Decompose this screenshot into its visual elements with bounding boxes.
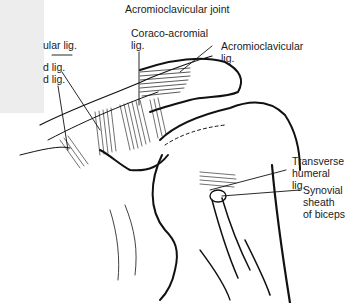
label-left-truncated-3: d lig.	[43, 73, 65, 85]
label-synovial-3: of biceps	[303, 208, 345, 220]
label-left-truncated-1: ular lig.	[43, 39, 77, 51]
label-acromioclavicular-joint: Acromioclavicular joint	[125, 3, 229, 15]
label-left-truncated-2: d lig.	[43, 61, 65, 73]
leader-synovial	[222, 190, 300, 196]
label-acromioclavicular-lig-2: lig.	[221, 52, 234, 64]
humerus-shaft-left	[153, 155, 177, 300]
humerus-shaft-right	[272, 165, 290, 303]
label-synovial-1: Synovial	[303, 184, 343, 196]
biceps-tendon	[222, 198, 250, 270]
label-transverse-1: Transverse	[292, 155, 344, 167]
label-coraco-acromial-1: Coraco-acromial	[131, 27, 208, 39]
clavicle	[40, 56, 212, 125]
label-synovial-2: sheath	[303, 196, 335, 208]
label-acromioclavicular-lig-1: Acromioclavicular	[221, 40, 303, 52]
label-transverse-2: humeral	[292, 167, 330, 179]
label-coraco-acromial-2: lig.	[131, 39, 144, 51]
left-gray-overlay	[0, 0, 44, 113]
